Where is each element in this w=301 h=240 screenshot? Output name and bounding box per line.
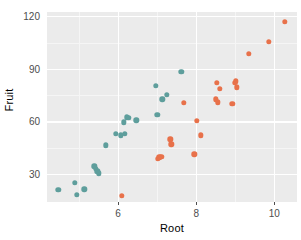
data-point xyxy=(217,86,222,91)
data-point xyxy=(282,19,287,24)
y-axis-tick-label: 120 xyxy=(14,11,40,22)
gridline-major-vertical xyxy=(118,12,119,202)
data-point xyxy=(160,97,165,102)
data-point xyxy=(126,115,131,120)
y-axis-tick-label: 60 xyxy=(14,116,40,127)
gridline-minor-horizontal xyxy=(47,148,297,149)
gridline-major-horizontal xyxy=(47,16,297,17)
data-point xyxy=(181,100,186,105)
x-axis-tick-label: 10 xyxy=(269,208,280,219)
x-axis-tick-mark xyxy=(274,202,275,205)
data-point xyxy=(119,193,124,198)
data-point xyxy=(72,180,77,185)
data-point xyxy=(164,92,169,97)
scatter-plot: Fruit 306090120 Root 6810 xyxy=(0,0,301,240)
gridline-minor-horizontal xyxy=(47,95,297,96)
data-point xyxy=(169,142,174,147)
data-point xyxy=(81,187,86,192)
gridline-major-vertical xyxy=(274,12,275,202)
data-point xyxy=(214,80,219,85)
data-point xyxy=(215,100,220,105)
y-axis-tick-label: 90 xyxy=(14,63,40,74)
data-point xyxy=(122,131,127,136)
data-point xyxy=(198,132,203,137)
gridline-minor-horizontal xyxy=(47,43,297,44)
x-axis-tick-mark xyxy=(196,202,197,205)
data-point xyxy=(234,85,239,90)
x-axis-tick-label: 8 xyxy=(193,208,199,219)
plot-panel xyxy=(47,12,297,202)
x-axis-title-text: Root xyxy=(160,222,184,234)
x-axis-tick-label: 6 xyxy=(115,208,121,219)
data-point xyxy=(121,119,126,124)
gridline-major-horizontal xyxy=(47,121,297,122)
data-point xyxy=(246,51,251,56)
x-axis-title: Root xyxy=(47,222,297,234)
y-axis-title-text: Fruit xyxy=(2,89,14,112)
gridline-major-vertical xyxy=(196,12,197,202)
gridline-major-horizontal xyxy=(47,69,297,70)
data-point xyxy=(233,78,238,83)
data-point xyxy=(229,101,234,106)
data-point xyxy=(154,112,159,117)
y-axis-tick-label: 30 xyxy=(14,168,40,179)
data-point xyxy=(159,154,164,159)
x-axis-tick-mark xyxy=(118,202,119,205)
data-point xyxy=(179,69,184,74)
data-point xyxy=(266,39,271,44)
gridline-major-horizontal xyxy=(47,174,297,175)
data-point xyxy=(56,187,61,192)
data-point xyxy=(153,83,158,88)
y-axis-ticks: 306090120 xyxy=(14,0,40,240)
